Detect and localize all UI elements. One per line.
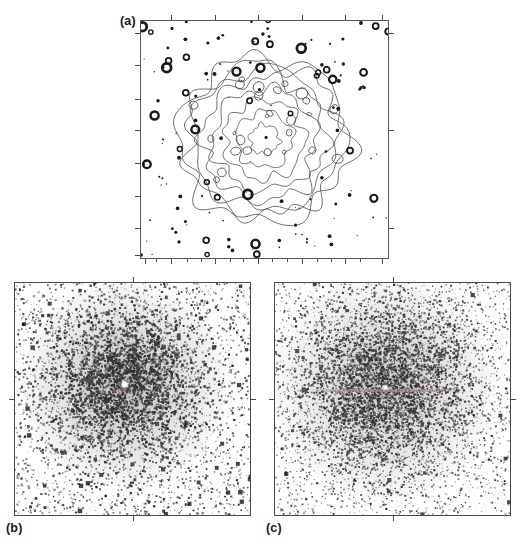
point-source-121 <box>314 73 319 78</box>
point-source-9 <box>177 147 182 152</box>
point-source-159 <box>336 129 340 133</box>
point-source-59 <box>149 219 151 221</box>
point-source-73 <box>175 132 176 133</box>
point-source-71 <box>249 61 252 64</box>
point-source-77 <box>228 96 229 97</box>
point-source-58 <box>310 198 312 200</box>
tick-top-1 <box>215 15 216 20</box>
tick-right-0 <box>511 399 516 400</box>
tick-bottom-2 <box>215 259 216 264</box>
point-source-32 <box>176 207 180 211</box>
tick-right-1 <box>389 130 394 131</box>
point-source-80 <box>222 220 224 222</box>
point-source-54 <box>250 20 253 23</box>
point-source-65 <box>320 176 324 180</box>
contour-island-25 <box>265 114 269 118</box>
tick-top-3 <box>302 15 303 20</box>
point-source-112 <box>184 220 187 223</box>
tick-right-0 <box>389 33 394 34</box>
point-source-90 <box>342 62 345 65</box>
point-source-136 <box>288 111 293 116</box>
point-source-47 <box>277 239 281 243</box>
point-source-130 <box>370 158 372 160</box>
contour-island-0 <box>282 81 289 87</box>
point-source-133 <box>250 161 251 162</box>
point-source-48 <box>329 43 331 45</box>
tick-top-0 <box>171 15 172 20</box>
panel-a-contour-map <box>140 20 389 259</box>
point-source-113 <box>268 35 271 38</box>
point-source-core-137 <box>246 193 249 196</box>
tick-left-3 <box>135 130 140 131</box>
point-source-7 <box>227 245 230 248</box>
panel-b-photon-events <box>14 282 251 516</box>
point-source-140 <box>247 216 248 217</box>
point-source-105 <box>310 39 312 41</box>
point-source-158 <box>170 27 173 30</box>
point-source-68 <box>183 90 189 96</box>
point-source-110 <box>278 246 280 248</box>
panel-b-label: (b) <box>6 521 23 535</box>
panel-a-canvas <box>140 20 389 259</box>
point-source-151 <box>334 218 335 219</box>
point-source-37 <box>348 193 352 197</box>
tick-right-0 <box>251 399 256 400</box>
point-source-166 <box>267 41 273 47</box>
point-source-157 <box>204 72 208 76</box>
tick-left-2 <box>135 99 140 100</box>
point-source-70 <box>341 37 344 40</box>
tick-bottom-minor-1 <box>187 259 188 262</box>
tick-top-0 <box>133 277 134 282</box>
tick-left-1 <box>135 65 140 66</box>
panel-c-canvas <box>274 282 511 516</box>
tick-bottom-minor-7 <box>317 259 318 262</box>
contour-level-5 <box>222 97 309 183</box>
point-source-144 <box>194 118 198 122</box>
tick-left-0 <box>269 399 274 400</box>
panel-b-photon-image <box>14 282 251 516</box>
point-source-92 <box>252 249 253 250</box>
tick-bottom-minor-6 <box>287 259 288 262</box>
contour-level-1 <box>180 60 350 223</box>
point-source-81 <box>144 59 145 60</box>
contour-island-19 <box>302 96 311 105</box>
point-source-78 <box>295 233 297 235</box>
point-source-127 <box>328 234 332 238</box>
point-source-155 <box>336 107 340 111</box>
point-source-61 <box>156 99 160 103</box>
point-source-86 <box>203 237 209 243</box>
figure-root: (a) (b) (c) <box>0 0 529 544</box>
panel-c-photon-events <box>274 282 511 516</box>
contour-level-7 <box>248 122 282 156</box>
point-source-45 <box>205 252 209 256</box>
point-source-97 <box>215 195 220 200</box>
point-source-82 <box>163 66 165 68</box>
panel-b-plot <box>14 282 251 516</box>
point-source-52 <box>221 34 224 37</box>
tick-bottom-minor-8 <box>331 259 332 262</box>
point-source-50 <box>330 243 334 247</box>
point-source-2 <box>209 212 211 214</box>
tick-top-4 <box>345 15 346 20</box>
point-source-49 <box>166 183 168 185</box>
point-source-120 <box>357 235 358 236</box>
point-source-28 <box>162 143 163 144</box>
point-source-69 <box>142 163 145 166</box>
tick-bottom-minor-2 <box>201 259 202 262</box>
point-source-core-104 <box>254 243 257 246</box>
point-source-154 <box>217 37 221 41</box>
point-source-0 <box>183 54 189 60</box>
point-source-13 <box>280 199 284 203</box>
tick-left-0 <box>9 399 14 400</box>
contour-island-14 <box>217 167 228 178</box>
point-source-79 <box>386 217 387 218</box>
point-source-145 <box>247 98 252 103</box>
point-source-20 <box>270 105 272 107</box>
tick-bottom-minor-4 <box>243 259 244 262</box>
point-source-34 <box>254 251 260 257</box>
point-source-22 <box>258 88 261 91</box>
point-source-8 <box>376 154 377 155</box>
point-source-99 <box>350 190 351 191</box>
point-source-43 <box>161 177 163 179</box>
point-source-46 <box>325 150 328 153</box>
